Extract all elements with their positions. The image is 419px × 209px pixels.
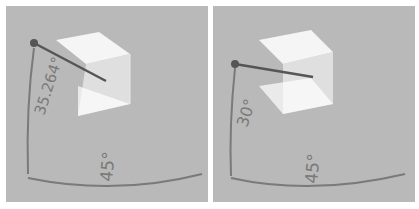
azimuth-label: 45°: [301, 153, 324, 185]
azimuth-label: 45°: [96, 151, 119, 183]
dimetric-panel: 30° 45°: [213, 6, 415, 202]
elevation-label: 35.264°: [31, 55, 67, 118]
dimetric-diagram: 30° 45°: [213, 6, 415, 202]
viewpoint-dot: [30, 39, 38, 47]
cube-icon: [259, 30, 333, 114]
isometric-panel: 35.264° 45°: [6, 6, 208, 202]
viewpoint-dot: [231, 60, 239, 68]
isometric-diagram: 35.264° 45°: [6, 6, 208, 202]
elevation-label: 30°: [233, 96, 260, 129]
